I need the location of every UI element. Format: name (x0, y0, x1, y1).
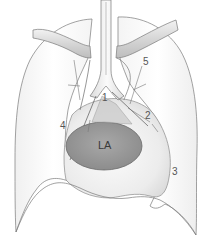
label-3: 3 (172, 167, 178, 177)
label-4: 4 (60, 121, 66, 131)
left-atrium-label: LA (98, 140, 111, 151)
label-1: 1 (102, 93, 108, 103)
chest-anatomy-diagram (0, 0, 213, 241)
label-5: 5 (143, 57, 149, 67)
label-2: 2 (145, 111, 151, 121)
